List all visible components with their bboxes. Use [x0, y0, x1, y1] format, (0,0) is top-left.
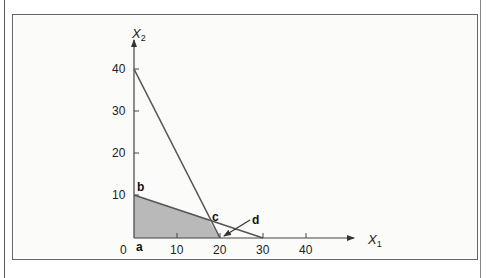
y-tick-label-20: 20: [112, 146, 126, 160]
point-label-c: c: [212, 210, 219, 224]
chart-canvas: 0 10 20 30 40 10 20 30 40 X2 X1 a b c d: [0, 0, 486, 278]
x-axis-title-sub: 1: [377, 239, 382, 249]
y-axis-title-sub: 2: [141, 33, 146, 43]
point-label-a: a: [136, 240, 143, 254]
x-tick-label-20: 20: [213, 243, 227, 257]
point-label-d: d: [252, 213, 259, 227]
x-axis-title: X1: [367, 232, 382, 249]
x-tick-label-10: 10: [170, 243, 184, 257]
x-tick-label-40: 40: [299, 243, 313, 257]
x-tick-label-0: 0: [120, 243, 127, 257]
y-axis-title: X2: [131, 26, 146, 43]
point-label-b: b: [137, 180, 144, 194]
y-tick-label-10: 10: [112, 188, 126, 202]
feasible-region: [134, 195, 220, 238]
x-tick-label-30: 30: [256, 243, 270, 257]
d-pointer-arrow: [224, 220, 250, 236]
y-tick-label-40: 40: [112, 62, 126, 76]
y-tick-label-30: 30: [112, 104, 126, 118]
